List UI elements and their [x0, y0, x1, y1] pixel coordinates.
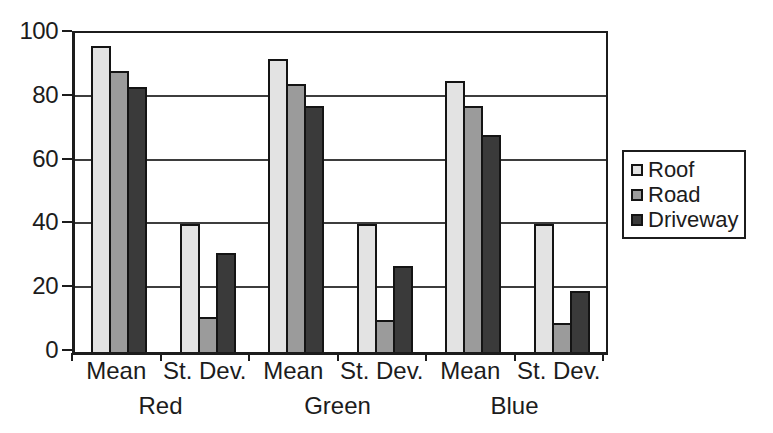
y-axis-label-0: 0 [0, 338, 58, 362]
legend-item-roof: Roof [631, 157, 738, 182]
legend-item-driveway: Driveway [631, 207, 738, 232]
bar-driveway-1 [216, 253, 236, 352]
bar-driveway-5 [570, 291, 590, 352]
bar-roof-0 [91, 46, 111, 352]
bar-road-0 [109, 71, 129, 352]
bar-road-1 [198, 317, 218, 352]
bar-road-3 [375, 320, 395, 352]
bar-slot-1 [164, 33, 253, 352]
bar-slot-3 [341, 33, 430, 352]
bar-roof-3 [357, 224, 377, 352]
bar-driveway-4 [481, 135, 501, 352]
legend: Roof Road Driveway [622, 150, 746, 239]
y-tick-80 [62, 94, 72, 96]
y-tick-100 [62, 30, 72, 32]
group-label-red: Red [91, 393, 231, 419]
bar-slot-2 [252, 33, 341, 352]
bar-road-2 [286, 84, 306, 352]
y-tick-0 [62, 349, 72, 351]
bar-chart: Roof Road Driveway 020406080100MeanSt. D… [0, 0, 773, 433]
plot-area [72, 31, 608, 355]
y-axis-label-80: 80 [0, 83, 58, 107]
driveway-swatch-icon [631, 214, 643, 226]
y-axis-label-100: 100 [0, 19, 58, 43]
bar-slot-5 [518, 33, 607, 352]
bar-roof-4 [445, 81, 465, 352]
bar-slot-4 [429, 33, 518, 352]
x-axis-label-5: St. Dev. [499, 358, 619, 384]
bar-road-4 [463, 106, 483, 352]
bar-roof-2 [268, 59, 288, 352]
bar-roof-1 [180, 224, 200, 352]
legend-label-road: Road [648, 182, 701, 207]
y-tick-20 [62, 285, 72, 287]
y-axis-label-40: 40 [0, 210, 58, 234]
legend-label-driveway: Driveway [648, 207, 738, 232]
roof-swatch-icon [631, 164, 643, 176]
y-tick-60 [62, 158, 72, 160]
bar-driveway-0 [127, 87, 147, 352]
y-axis-label-20: 20 [0, 274, 58, 298]
legend-item-road: Road [631, 182, 738, 207]
bar-roof-5 [534, 224, 554, 352]
y-axis-label-60: 60 [0, 147, 58, 171]
bar-driveway-2 [304, 106, 324, 352]
group-label-blue: Blue [445, 393, 585, 419]
bar-road-5 [552, 323, 572, 352]
bar-driveway-3 [393, 266, 413, 352]
bar-slot-0 [75, 33, 164, 352]
legend-label-roof: Roof [648, 157, 694, 182]
group-label-green: Green [268, 393, 408, 419]
y-tick-40 [62, 221, 72, 223]
road-swatch-icon [631, 189, 643, 201]
